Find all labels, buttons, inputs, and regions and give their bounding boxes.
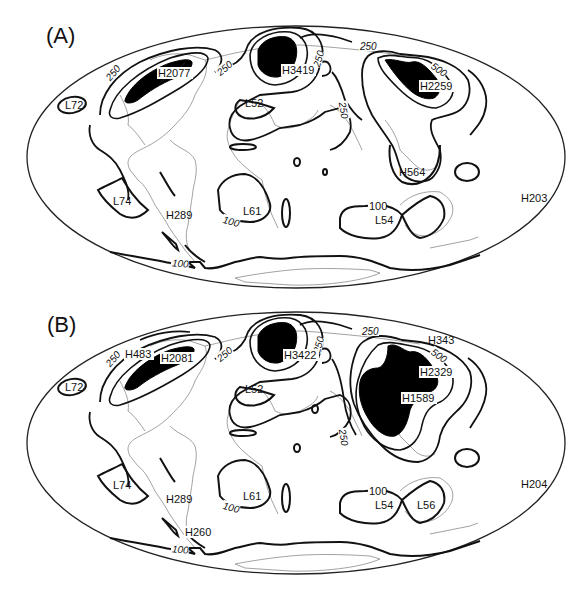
contour-label: 250 bbox=[359, 41, 377, 52]
contour-label: 250 bbox=[361, 326, 379, 337]
high-label: H2259 bbox=[420, 80, 452, 92]
low-label: L52 bbox=[245, 97, 263, 109]
panel-b-title: (B) bbox=[47, 312, 76, 337]
contour-label: 250 bbox=[337, 100, 351, 120]
low-label: L54 bbox=[375, 214, 393, 226]
contour-label: 100 bbox=[369, 485, 387, 497]
panel-a-contours-100 bbox=[57, 95, 480, 270]
low-label: L74 bbox=[113, 195, 131, 207]
panel-a: (A) bbox=[27, 23, 565, 288]
high-label: H2081 bbox=[161, 352, 193, 364]
contour-label: 100 bbox=[222, 500, 241, 515]
low-label: L61 bbox=[243, 490, 261, 502]
high-label: H289 bbox=[166, 493, 192, 505]
low-label: L54 bbox=[375, 499, 393, 511]
contour-label: 250 bbox=[214, 344, 235, 364]
low-label: L61 bbox=[243, 205, 261, 217]
high-label: H204 bbox=[521, 478, 547, 490]
low-label: L72 bbox=[65, 99, 83, 111]
low-label: L56 bbox=[417, 499, 435, 511]
high-label: H564 bbox=[399, 166, 425, 178]
high-label: H203 bbox=[521, 192, 547, 204]
figure-canvas: (A) bbox=[0, 0, 587, 590]
high-label: H2077 bbox=[158, 67, 190, 79]
panel-a-title: (A) bbox=[46, 23, 75, 48]
high-label: H289 bbox=[166, 209, 192, 221]
contour-label: 100 bbox=[172, 543, 190, 555]
contour-label: 250 bbox=[103, 349, 123, 370]
high-label: H260 bbox=[185, 526, 211, 538]
high-label: H2329 bbox=[420, 366, 452, 378]
high-label: H3419 bbox=[282, 64, 314, 76]
contour-label: 100 bbox=[172, 257, 190, 269]
low-label: L52 bbox=[245, 383, 263, 395]
contour-label: 250 bbox=[103, 63, 123, 84]
high-label: H3422 bbox=[284, 349, 316, 361]
panel-b: (B) bbox=[27, 312, 565, 574]
low-label: L72 bbox=[65, 381, 83, 393]
high-label: H343 bbox=[428, 334, 454, 346]
low-label: L74 bbox=[113, 479, 131, 491]
contour-label: 100 bbox=[369, 200, 387, 212]
contour-label: 250 bbox=[337, 427, 351, 447]
contour-label: 100 bbox=[222, 214, 241, 229]
high-label: H1589 bbox=[402, 392, 434, 404]
high-label: H483 bbox=[125, 348, 151, 360]
contour-label: 250 bbox=[214, 58, 235, 78]
contour-label: 500 bbox=[429, 346, 449, 365]
